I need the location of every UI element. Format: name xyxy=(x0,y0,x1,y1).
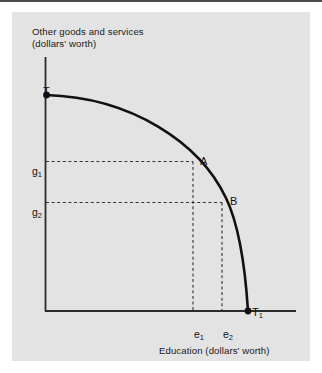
point-label-T1-subscript: 1 xyxy=(259,311,263,320)
x-tick-e2-subscript: 2 xyxy=(229,333,233,342)
point-marker-T1 xyxy=(245,308,252,315)
x-tick-label-e2: e2 xyxy=(223,329,233,342)
point-label-T: T xyxy=(43,86,50,97)
y-axis-title-line1: Other goods and services xyxy=(32,26,144,38)
x-axis-title: Education (dollars' worth) xyxy=(159,345,270,357)
x-tick-e1-subscript: 1 xyxy=(200,333,204,342)
x-tick-e2-base: e xyxy=(223,328,229,340)
y-axis-title: Other goods and services (dollars' worth… xyxy=(32,26,144,49)
top-rule-divider xyxy=(0,0,322,2)
x-tick-label-e1: e1 xyxy=(194,329,204,342)
figure-panel: Other goods and services (dollars' worth… xyxy=(12,12,310,361)
y-tick-g2-subscript: 2 xyxy=(38,211,42,220)
y-tick-label-g1: g1 xyxy=(32,166,42,179)
chart-svg xyxy=(12,12,310,361)
y-axis-title-line2: (dollars' worth) xyxy=(32,38,144,50)
y-tick-g1-subscript: 1 xyxy=(38,170,42,179)
figure-page: Other goods and services (dollars' worth… xyxy=(0,0,322,373)
y-tick-label-g2: g2 xyxy=(32,207,42,220)
x-tick-e1-base: e xyxy=(194,328,200,340)
y-tick-g1-base: g xyxy=(32,165,38,177)
point-label-T1-base: T xyxy=(252,306,259,318)
ppf-chart: Other goods and services (dollars' worth… xyxy=(12,12,310,361)
point-label-B: B xyxy=(230,196,237,207)
point-label-T1: T1 xyxy=(252,307,263,319)
y-tick-g2-base: g xyxy=(32,206,38,218)
point-label-A: A xyxy=(200,156,207,167)
